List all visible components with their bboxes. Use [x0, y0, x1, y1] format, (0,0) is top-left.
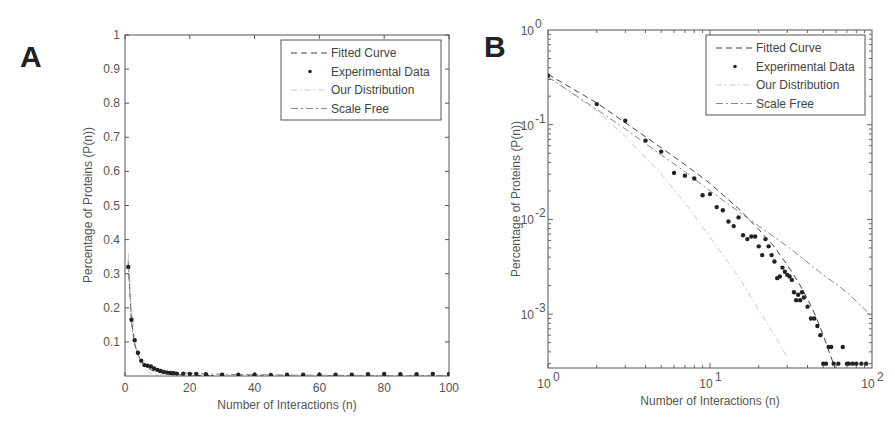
x-tick-label: 10: [537, 377, 551, 391]
panel-b-legend: Fitted CurveExperimental DataOur Distrib…: [706, 35, 865, 115]
panel-b: B 10010110210010-110-210-3 Number of Int…: [484, 17, 884, 408]
svg-text:-1: -1: [535, 112, 546, 126]
legend-entry: Experimental Data: [756, 60, 855, 74]
y-tick-label: 0.3: [103, 267, 120, 281]
svg-text:0: 0: [535, 17, 542, 31]
y-tick-label: 0.9: [103, 62, 120, 76]
y-tick-label: 1: [113, 28, 120, 42]
legend-entry: Our Distribution: [331, 83, 414, 97]
x-tick-label: 10: [699, 377, 713, 391]
legend-entry: Our Distribution: [756, 78, 839, 92]
y-tick-label: 0.7: [103, 130, 120, 144]
panel-a-x-axis-label: Number of Interactions (n): [217, 398, 356, 412]
svg-text:1: 1: [715, 370, 722, 384]
y-tick-label: 0.4: [103, 233, 120, 247]
panel-a-letter: A: [20, 40, 42, 73]
x-tick-label: 60: [313, 381, 327, 395]
panel-b-y-axis-label: Percentage of Proteins (P(n)): [509, 121, 523, 277]
legend-entry: Scale Free: [331, 102, 389, 116]
panel-a-legend: Fitted CurveExperimental DataOur Distrib…: [281, 40, 441, 120]
legend-marker-icon: [308, 70, 312, 74]
x-tick-label: 80: [378, 381, 392, 395]
panel-a-y-axis-label: Percentage of Proteins (P(n)): [81, 127, 95, 283]
x-tick-label: 10: [861, 377, 875, 391]
x-tick-label: 20: [183, 381, 197, 395]
legend-entry: Fitted Curve: [756, 41, 822, 55]
y-tick-label: 0.5: [103, 199, 120, 213]
panel-b-x-axis-label: Number of Interactions (n): [640, 394, 779, 408]
y-tick-label: 10: [521, 24, 535, 38]
y-tick-label: 0.1: [103, 335, 120, 349]
y-tick-label: 10: [521, 308, 535, 322]
x-tick-label: 100: [439, 381, 459, 395]
y-tick-label: 0.8: [103, 96, 120, 110]
legend-entry: Scale Free: [756, 97, 814, 111]
svg-text:0: 0: [553, 370, 560, 384]
figure-canvas: A 0204060801000.10.20.30.40.50.60.70.80.…: [0, 0, 895, 434]
panel-a: A 0204060801000.10.20.30.40.50.60.70.80.…: [20, 28, 459, 412]
legend-entry: Fitted Curve: [331, 46, 397, 60]
legend-entry: Experimental Data: [331, 65, 430, 79]
y-tick-label: 0.6: [103, 164, 120, 178]
x-tick-label: 0: [122, 381, 129, 395]
svg-text:-2: -2: [535, 206, 546, 220]
y-tick-label: 0.2: [103, 301, 120, 315]
panel-b-letter: B: [484, 30, 506, 63]
legend-marker-icon: [733, 65, 737, 69]
svg-text:-3: -3: [535, 301, 546, 315]
x-tick-label: 40: [248, 381, 262, 395]
svg-text:2: 2: [877, 370, 884, 384]
